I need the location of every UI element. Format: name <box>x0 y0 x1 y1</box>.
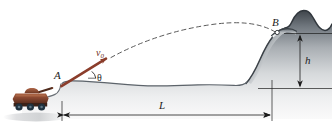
label-height-h: h <box>305 55 311 66</box>
label-point-a: A <box>54 70 61 81</box>
point-b-marker <box>275 30 279 34</box>
tank-gun-barrel <box>39 88 52 92</box>
tank-hull-highlight <box>15 94 46 96</box>
figure-canvas <box>0 0 332 131</box>
label-point-b: B <box>272 17 279 28</box>
launch-angle-arc <box>92 71 96 78</box>
velocity-subscript: 0 <box>100 52 104 60</box>
physics-projectile-figure: A B L h θ v0 <box>0 0 332 131</box>
label-range-l: L <box>159 100 165 111</box>
label-initial-velocity: v0 <box>96 48 104 60</box>
terrain-body <box>22 11 332 119</box>
terrain-profile <box>3 11 332 122</box>
label-angle-theta: θ <box>97 73 102 83</box>
tank-wheel-hub <box>18 106 21 109</box>
tank-wheel-hub <box>40 106 43 109</box>
ground-shadow <box>3 113 69 122</box>
tank-turret <box>25 88 40 93</box>
tank-muzzle-flash <box>51 87 53 89</box>
tank-wheel-hub <box>29 106 32 109</box>
dashed-parabolic-trajectory <box>111 23 275 58</box>
